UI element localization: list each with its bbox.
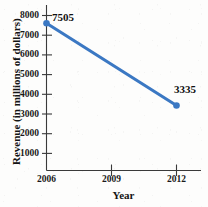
- data-label-2012: 3335: [174, 84, 196, 95]
- x-tick-label-2012: 2012: [163, 175, 190, 185]
- x-tick-label-2009: 2009: [98, 175, 125, 185]
- data-label-2006: 7505: [52, 12, 74, 23]
- x-tick-label-2006: 2006: [33, 175, 60, 185]
- y-axis-title: Revenue (in millions of dollars): [11, 18, 22, 165]
- revenue-line-chart: 8000 7000 6000 5000 4000 3000 2000 1000 …: [0, 0, 208, 207]
- data-point-2012: [173, 102, 180, 109]
- data-line-segment: [47, 23, 177, 105]
- data-point-2006: [43, 20, 50, 27]
- x-axis-title: Year: [46, 190, 201, 201]
